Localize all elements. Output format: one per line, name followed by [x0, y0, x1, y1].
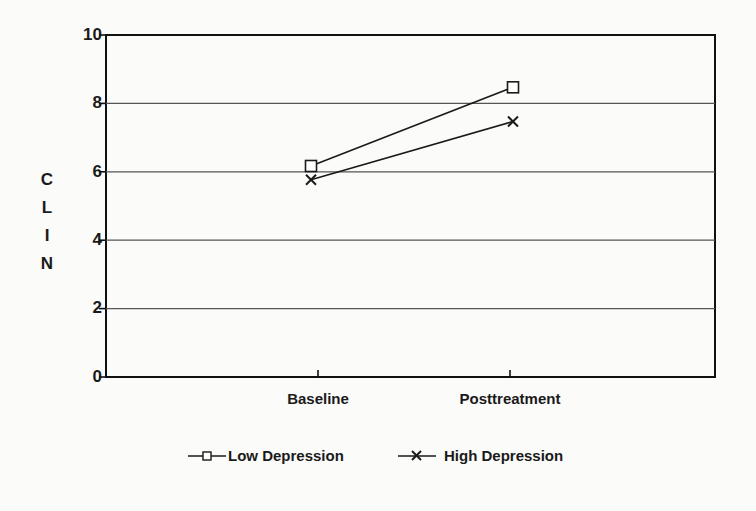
plot-frame	[106, 35, 715, 377]
legend-marker-low-depression	[188, 452, 226, 460]
x-tick-label-posttreatment: Posttreatment	[440, 390, 580, 407]
legend-label-low-depression: Low Depression	[228, 447, 344, 464]
series-high-depression-point-posttreatment	[508, 117, 518, 127]
chart-figure: C L I N 10 8 6 4 2 0	[0, 0, 756, 511]
series-low-depression-line	[311, 87, 513, 166]
series-high-depression-point-baseline	[306, 175, 316, 185]
legend-label-high-depression: High Depression	[444, 447, 563, 464]
series-low-depression-point-baseline	[306, 161, 317, 172]
series-high-depression-line	[311, 122, 513, 180]
plot-area	[0, 0, 756, 511]
legend-marker-high-depression	[398, 451, 436, 460]
x-tick-label-baseline: Baseline	[258, 390, 378, 407]
series-low-depression-point-posttreatment	[508, 82, 519, 93]
